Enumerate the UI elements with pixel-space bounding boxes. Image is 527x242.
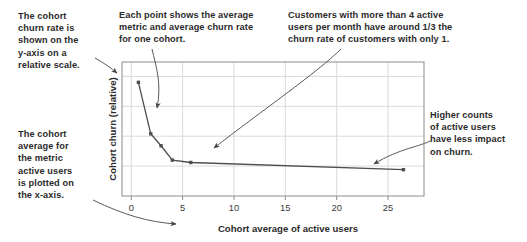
data-point-marker (171, 158, 174, 161)
x-axis-tick-label: 0 (129, 202, 134, 213)
plot-background (122, 62, 424, 196)
leader-line-x-axis-metric (93, 200, 176, 224)
x-axis-tick-label: 15 (280, 202, 290, 213)
y-axis-title: Cohort churn (relative) (107, 77, 118, 180)
data-point-marker (159, 144, 162, 147)
x-axis-tick-labels: 0510152025 (129, 202, 394, 213)
data-point-marker (137, 81, 140, 84)
chart-figure: 0510152025 Cohort churn (relative) Cohor… (0, 0, 527, 242)
x-axis-tick-label: 5 (180, 202, 185, 213)
figure-root: The cohort churn rate is shown on the y-… (0, 0, 527, 242)
data-point-marker (402, 168, 405, 171)
x-axis-tick-label: 10 (229, 202, 239, 213)
data-point-marker (149, 132, 152, 135)
leader-line-y-axis-scale (95, 58, 117, 73)
x-axis-ticks (131, 196, 388, 200)
data-point-marker (189, 161, 192, 164)
x-axis-tick-label: 20 (331, 202, 341, 213)
x-axis-tick-label: 25 (383, 202, 393, 213)
x-axis-title: Cohort average of active users (218, 223, 358, 234)
